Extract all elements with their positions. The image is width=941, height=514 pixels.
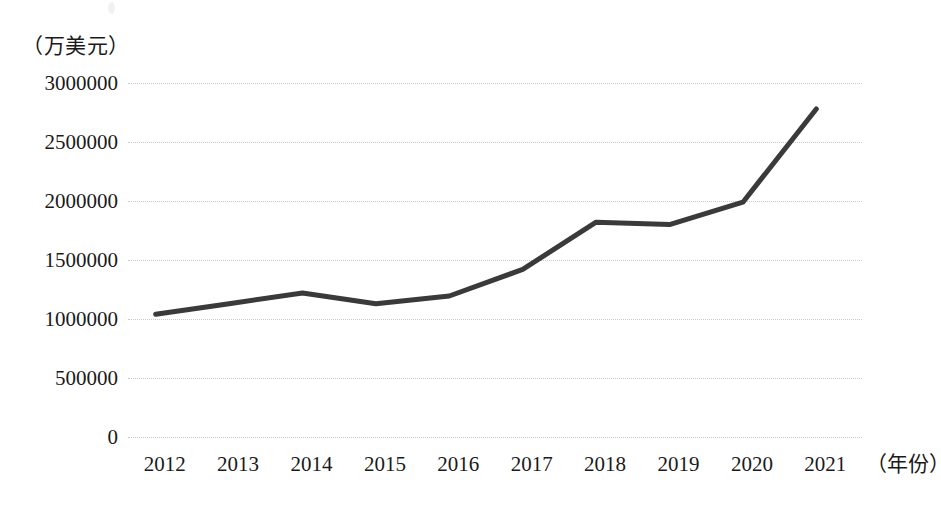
y-axis-tick-labels: 0500000100000015000002000000250000030000… (0, 83, 118, 437)
gridline (128, 83, 862, 84)
gridline (128, 319, 862, 320)
x-tick-label: 2016 (437, 452, 479, 476)
y-tick-label: 2000000 (0, 191, 118, 212)
y-tick-label: 2500000 (0, 132, 118, 153)
y-tick-label: 1000000 (0, 309, 118, 330)
x-axis-tick-labels: 2012201320142015201620172018201920202021 (128, 452, 862, 482)
x-tick-label: 2015 (364, 452, 406, 476)
gridline (128, 260, 862, 261)
scan-artifact (108, 2, 115, 14)
gridline (128, 201, 862, 202)
y-tick-label: 500000 (0, 368, 118, 389)
x-tick-label: 2013 (217, 452, 259, 476)
x-tick-label: 2021 (804, 452, 846, 476)
y-tick-label: 0 (0, 427, 118, 448)
x-tick-label: 2020 (731, 452, 773, 476)
x-axis-unit-label: （年份） (866, 452, 941, 476)
x-tick-label: 2018 (584, 452, 626, 476)
plot-area (128, 83, 862, 437)
gridline (128, 378, 862, 379)
x-tick-label: 2019 (658, 452, 700, 476)
y-tick-label: 1500000 (0, 250, 118, 271)
y-tick-label: 3000000 (0, 73, 118, 94)
x-tick-label: 2017 (511, 452, 553, 476)
gridline (128, 437, 862, 438)
y-axis-unit-label: （万美元） (22, 29, 130, 59)
x-tick-label: 2012 (144, 452, 186, 476)
x-tick-label: 2014 (291, 452, 333, 476)
gridline (128, 142, 862, 143)
